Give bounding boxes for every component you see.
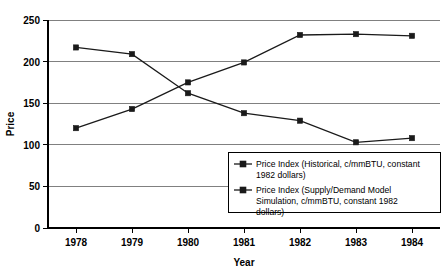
data-point-marker (73, 45, 78, 50)
x-tick-label-1984: 1984 (401, 237, 424, 248)
data-point-marker (185, 80, 190, 85)
y-tick-label-50: 50 (29, 181, 41, 192)
data-point-marker (297, 32, 302, 37)
y-tick-marks (43, 20, 48, 228)
x-tick-label-1978: 1978 (65, 237, 88, 248)
data-point-marker (129, 106, 134, 111)
data-point-marker (73, 126, 78, 131)
chart-canvas: 250 200 150 100 50 0 1978 1979 1980 1981… (0, 0, 447, 273)
data-point-marker (353, 32, 358, 37)
legend-label-simulation-line2: Simulation, c/mmBTU, constant 1982 (256, 196, 398, 206)
legend-marker-historical (240, 161, 246, 167)
legend-marker-simulation (240, 187, 246, 193)
data-point-marker (241, 60, 246, 65)
x-axis-title: Year (233, 257, 254, 268)
data-point-marker (241, 111, 246, 116)
y-tick-label-150: 150 (23, 98, 40, 109)
legend-label-simulation-line1: Price Index (Supply/Demand Model (256, 185, 391, 195)
y-tick-label-100: 100 (23, 140, 40, 151)
x-tick-label-1983: 1983 (345, 237, 368, 248)
x-tick-label-1980: 1980 (177, 237, 200, 248)
y-tick-label-0: 0 (34, 223, 40, 234)
chart-legend: Price Index (Historical, c/mmBTU, consta… (228, 152, 440, 217)
legend-label-historical-line2: 1982 dollars) (256, 170, 306, 180)
y-tick-label-250: 250 (23, 15, 40, 26)
data-point-marker (409, 33, 414, 38)
data-point-marker (409, 136, 414, 141)
x-tick-label-1981: 1981 (233, 237, 256, 248)
x-tick-marks (76, 228, 412, 233)
y-axis-title: Price (5, 111, 16, 136)
data-point-marker (129, 52, 134, 57)
data-point-marker (353, 140, 358, 145)
data-point-marker (185, 91, 190, 96)
price-index-line-chart: 250 200 150 100 50 0 1978 1979 1980 1981… (0, 0, 447, 273)
legend-label-historical-line1: Price Index (Historical, c/mmBTU, consta… (256, 159, 420, 169)
legend-label-simulation-line3: dollars) (256, 207, 284, 217)
data-point-marker (297, 118, 302, 123)
x-tick-label-1982: 1982 (289, 237, 312, 248)
y-tick-label-200: 200 (23, 57, 40, 68)
x-tick-label-1979: 1979 (121, 237, 144, 248)
